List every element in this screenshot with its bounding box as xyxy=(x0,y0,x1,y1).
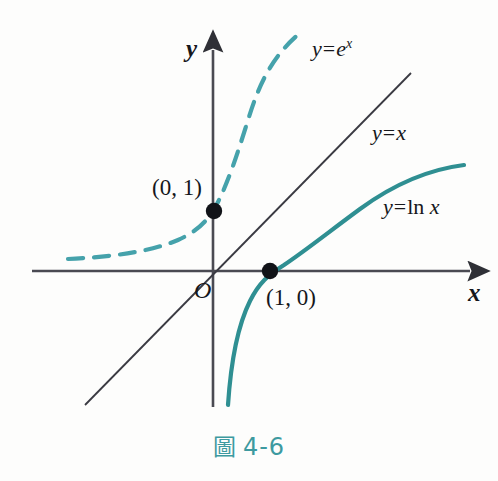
identity-label-x: x xyxy=(396,120,406,145)
ln-label-eq: = xyxy=(393,194,407,219)
ln-label-arg: x xyxy=(430,194,440,219)
figure-caption-glyph: 圖 xyxy=(213,434,237,460)
origin-label: O xyxy=(194,278,211,302)
point-1-0-label: (1, 0) xyxy=(266,286,316,309)
figure-caption-number: 4-6 xyxy=(243,433,285,461)
y-axis-label: y xyxy=(186,36,197,61)
identity-line-label: y=x xyxy=(372,122,406,144)
logarithm-curve-label: y=ln x xyxy=(383,196,440,218)
point-1-0-dot xyxy=(262,263,278,279)
identity-label-eq: = xyxy=(382,120,396,145)
ln-label-y: y xyxy=(383,194,393,219)
figure-caption: 圖4-6 xyxy=(0,428,498,462)
figure-4-6: y x O y=ex y=x y=ln x (0, 1) (1, 0) 圖4-6 xyxy=(0,0,498,481)
identity-label-y: y xyxy=(372,120,382,145)
exp-label-eq: = xyxy=(322,36,336,61)
exp-label-exponent: x xyxy=(346,36,352,51)
point-0-1-dot xyxy=(206,203,222,219)
exp-label-base: e xyxy=(336,36,346,61)
point-0-1-label: (0, 1) xyxy=(152,176,202,199)
exp-label-y: y xyxy=(312,36,322,61)
identity-line-curve xyxy=(85,73,411,405)
exponential-curve xyxy=(68,33,300,259)
ln-label-fn: ln xyxy=(407,194,424,219)
x-axis-label: x xyxy=(468,280,481,305)
exponential-curve-label: y=ex xyxy=(312,38,352,60)
plot-canvas xyxy=(0,0,498,481)
